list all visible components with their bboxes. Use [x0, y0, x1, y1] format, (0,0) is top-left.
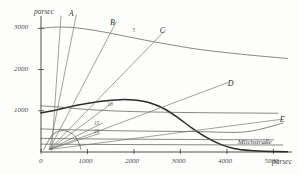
- x-tick-label: 3000: [171, 158, 185, 165]
- value-label-20: 20: [94, 129, 100, 135]
- curve-label-b: B: [110, 19, 115, 27]
- curve-label-d: D: [228, 80, 234, 88]
- y-tick-label: 2000: [14, 66, 28, 73]
- curve-label-e: E: [280, 116, 285, 124]
- curve-label-a: A: [69, 10, 74, 18]
- x-tick-label: 2000: [125, 158, 139, 165]
- figure-container: parsec parsec 10002000300001000200030004…: [0, 0, 299, 174]
- series-ray-inner-2: [49, 123, 102, 149]
- x-tick-label: 5000: [264, 158, 278, 165]
- data-series-layer: [41, 15, 287, 152]
- milky-way-label: Milchstraße: [238, 139, 272, 146]
- chart-plot: [0, 0, 299, 174]
- y-tick-label: 3000: [14, 24, 28, 31]
- value-label-15: 15: [94, 121, 100, 127]
- x-tick-label: 0: [39, 158, 43, 165]
- x-tick-label: 4000: [218, 158, 232, 165]
- x-tick-label: 1000: [78, 158, 92, 165]
- value-label-10: 10: [107, 102, 113, 108]
- axes-layer: [38, 16, 292, 154]
- series-ray-C: [49, 30, 165, 150]
- y-tick-label: 1000: [14, 107, 28, 114]
- value-label-5: 5: [132, 28, 135, 34]
- y-axis-unit-label: parsec: [34, 8, 54, 16]
- curve-label-c: C: [160, 27, 165, 35]
- series-low-band-1: [41, 123, 283, 132]
